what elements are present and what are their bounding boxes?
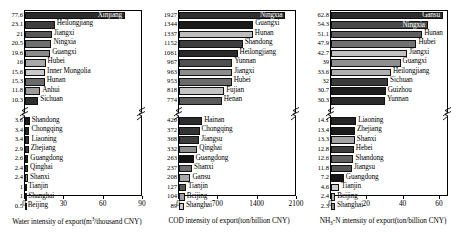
bar-category-label: Shandong [32, 116, 60, 126]
bar-row: Jiangxi42.7 [331, 49, 447, 58]
bar-category-label: Shanxi [357, 135, 376, 145]
bar-row: Ningxia1927 [179, 11, 295, 20]
bar-row: Chongqing372 [179, 126, 295, 135]
bar-row: Jiangxi963 [179, 68, 295, 77]
bar [25, 174, 28, 182]
bar-row: Liaoning14.1 [331, 117, 447, 126]
bar [179, 40, 243, 48]
bar-value-label: 11.8 [12, 85, 23, 95]
bar-row: Guangxi39 [331, 58, 447, 67]
bar-row: Shandong12.6 [331, 155, 447, 164]
bar: Gansu [331, 12, 443, 20]
bar-value-label: 372 [167, 125, 177, 135]
bar-category-label: Hunan [47, 76, 66, 86]
panel-cod-intensity: Ningxia1927Guangxi1344Hunan1337Shandong1… [152, 0, 306, 248]
bar-row: Hubei953 [179, 77, 295, 86]
bar [331, 40, 416, 48]
bar [179, 31, 253, 39]
bar-category-label: Inner Mongolia [47, 67, 91, 77]
bar-value-label: 33.6 [317, 67, 329, 77]
bar-category-label: Liaoning [358, 116, 383, 126]
bar-row: Jiangxi21 [25, 30, 141, 39]
bar [179, 97, 222, 105]
bar-value-label: 47.9 [317, 38, 329, 48]
bar-row: Hunan1337 [179, 30, 295, 39]
bar-row: Qinghai332 [179, 145, 295, 154]
bar-category-label: Guizhou [388, 86, 412, 96]
bar-row: Yunnan30.3 [331, 96, 447, 105]
bar [25, 117, 30, 125]
bar-category-label: Shandong [245, 38, 273, 48]
bar-value-label: 2.4 [15, 163, 23, 173]
bar-row: Shanxi13.3 [331, 136, 447, 145]
bar-row: Hubei47.9 [331, 39, 447, 48]
bar [25, 87, 40, 95]
bar-category-label: Liaoning [31, 135, 56, 145]
bar-category-label: Jiangxi [409, 48, 429, 58]
bar-value-label: 16 [16, 57, 23, 67]
bar-category-label: Qinghai [30, 163, 52, 173]
plot-area-cod: Ningxia1927Guangxi1344Hunan1337Shandong1… [178, 10, 296, 196]
bar-category-label: Sichuan [390, 76, 412, 86]
bar [179, 136, 199, 144]
bar-category-label: Fujian [226, 86, 244, 96]
plot-area-water: Xinjiang77.6Heilongjiang23.1Jiangxi21Nin… [24, 10, 142, 196]
bar [331, 127, 355, 135]
bar-value-label: 7.2 [321, 172, 329, 182]
bar-row: Heilongjiang1061 [179, 49, 295, 58]
bar-value-label: 19.6 [11, 48, 23, 58]
bar-row: Liaoning3.4 [25, 136, 141, 145]
bar-value-label: 4.6 [321, 182, 329, 192]
bar-value-label: 953 [167, 76, 177, 86]
bar [25, 97, 38, 105]
bar [25, 155, 28, 163]
bar-value-label: 13.4 [317, 125, 329, 135]
bar-row: Tianjin127 [179, 183, 295, 192]
bar-category-label: Anhui [42, 86, 59, 96]
panel-water-intensity: Xinjiang77.6Heilongjiang23.1Jiangxi21Nin… [0, 0, 152, 248]
bar: Xinjiang [25, 12, 125, 20]
x-tick-label: 40 [399, 199, 406, 208]
bar [25, 146, 29, 154]
bar-row: Shandong1152 [179, 39, 295, 48]
bar [25, 184, 27, 192]
bar-category-label: Zhejiang [31, 144, 56, 154]
bar-value-label: 14.1 [317, 115, 329, 125]
bar-value-label: 39 [322, 57, 329, 67]
bar [331, 50, 407, 58]
bar-category-label: Hebei [356, 144, 373, 154]
bar-category-label: Chongqing [202, 125, 233, 135]
bar-category-label: Hunan [255, 29, 274, 39]
bar-row: Hebei12.8 [331, 145, 447, 154]
bar-category-label: Yunnan [387, 95, 408, 105]
bar [179, 184, 186, 192]
bar-row: Guangxi1344 [179, 20, 295, 29]
bar-category-label: Shandong [355, 154, 383, 164]
bar-row: Tianjin4.6 [331, 183, 447, 192]
bar-row: Guangxi19.6 [25, 49, 141, 58]
bar-category-label: Guangxi [255, 19, 279, 29]
bar [331, 174, 344, 182]
bar-value-label: 2.9 [15, 144, 23, 154]
bar-category-label: Guangxi [403, 57, 427, 67]
bar-value-label: 32 [322, 76, 329, 86]
bar-row: Xinjiang77.6 [25, 11, 141, 20]
bar [179, 155, 194, 163]
bar-row: Sichuan10.3 [25, 96, 141, 105]
x-tick-label: 1400 [249, 199, 264, 208]
bar-category-label: Henan [224, 95, 242, 105]
x-tick-label: 20 [363, 199, 370, 208]
bar-value-label: 332 [167, 144, 177, 154]
bar: Ningxia [179, 12, 285, 20]
bar-value-label: 15.3 [11, 76, 23, 86]
bar-category-label: Jiangxi [234, 67, 254, 77]
bar-category-label: Shanxi [30, 173, 49, 183]
bar [331, 117, 356, 125]
bar-value-label: 208 [167, 172, 177, 182]
bar [331, 78, 388, 86]
bar-value-label: 3.4 [15, 125, 23, 135]
bar-value-label: 12.6 [317, 153, 329, 163]
bar [25, 50, 50, 58]
bar-row: Tianjin1 [25, 183, 141, 192]
bar-category-label: Jiangxi [54, 29, 74, 39]
